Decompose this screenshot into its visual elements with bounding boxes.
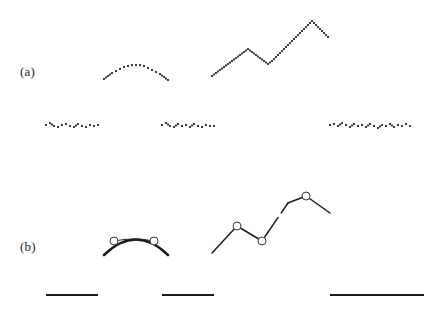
data-dot <box>409 125 411 127</box>
data-dot <box>385 125 387 127</box>
data-dot <box>213 125 215 127</box>
panel-label-a: (a) <box>20 64 35 80</box>
data-dot <box>77 123 79 125</box>
data-dot <box>103 78 105 80</box>
data-dot <box>123 66 125 68</box>
data-dot <box>215 72 217 74</box>
data-dot <box>229 62 231 64</box>
data-dot <box>219 69 221 71</box>
data-dot <box>151 69 153 71</box>
data-dot <box>293 38 295 40</box>
data-dot <box>111 72 113 74</box>
data-dot <box>255 54 257 56</box>
data-dot <box>325 34 327 36</box>
vertex-marker <box>150 237 158 245</box>
data-dot <box>223 66 225 68</box>
data-dot <box>339 124 341 126</box>
data-dot <box>369 123 371 125</box>
data-dot <box>239 54 241 56</box>
data-dot <box>373 125 375 127</box>
data-dot <box>75 125 77 127</box>
data-dot <box>341 122 343 124</box>
polyline-segment <box>281 203 288 213</box>
data-dot <box>273 58 275 60</box>
data-dot <box>105 77 107 79</box>
vertex-marker <box>258 237 266 245</box>
data-dot <box>271 60 273 62</box>
data-dot <box>163 76 165 78</box>
data-dot <box>165 78 167 80</box>
data-dot <box>69 125 71 127</box>
data-dot <box>333 123 335 125</box>
data-dot <box>389 123 391 125</box>
data-dot <box>107 75 109 77</box>
data-dot <box>73 126 75 128</box>
data-dot <box>175 125 177 127</box>
data-dot <box>213 74 215 76</box>
data-dot <box>61 124 63 126</box>
data-dot <box>45 124 47 126</box>
data-dot <box>277 54 279 56</box>
dot-series-group-1-baseline-trail <box>45 122 99 128</box>
data-dot <box>109 74 111 76</box>
panel-b-line-group <box>46 192 424 295</box>
data-dot <box>51 124 53 126</box>
data-dot <box>93 125 95 127</box>
data-dot <box>313 22 315 24</box>
vertex-marker <box>233 222 241 230</box>
data-dot <box>185 124 187 126</box>
data-dot <box>201 126 203 128</box>
data-dot <box>197 125 199 127</box>
data-dot <box>261 59 263 61</box>
data-dot <box>155 71 157 73</box>
data-dot <box>167 124 169 126</box>
data-dot <box>321 30 323 32</box>
data-dot <box>243 51 245 53</box>
data-dot <box>391 125 393 127</box>
data-dot <box>233 59 235 61</box>
data-dot <box>253 53 255 55</box>
data-dot <box>247 48 249 50</box>
data-dot <box>225 65 227 67</box>
data-dot <box>263 60 265 62</box>
data-dot <box>307 24 309 26</box>
data-dot <box>295 36 297 38</box>
dot-series-group-3-zigzag <box>211 20 329 77</box>
data-dot <box>327 36 329 38</box>
data-dot <box>81 125 83 127</box>
data-dot <box>377 127 379 129</box>
data-dot <box>119 68 121 70</box>
data-dot <box>297 34 299 36</box>
vertex-marker <box>302 192 310 200</box>
data-dot <box>365 126 367 128</box>
data-dot <box>127 65 129 67</box>
data-dot <box>245 50 247 52</box>
data-dot <box>345 124 347 126</box>
data-dot <box>165 122 167 124</box>
dot-series-group-3-baseline-trail <box>329 122 411 129</box>
data-dot <box>361 124 363 126</box>
data-dot <box>65 123 67 125</box>
polyline-segment <box>212 226 237 253</box>
vertex-marker <box>110 237 118 245</box>
data-dot <box>291 40 293 42</box>
data-dot <box>135 64 137 66</box>
data-dot <box>315 24 317 26</box>
data-dot <box>323 32 325 34</box>
figure-canvas: (a) (b) <box>0 0 434 309</box>
data-dot <box>303 28 305 30</box>
dot-series-group-2-upper-arc <box>103 64 169 81</box>
data-dot <box>97 124 99 126</box>
data-dot <box>287 44 289 46</box>
data-dot <box>311 20 313 22</box>
data-dot <box>131 64 133 66</box>
data-dot <box>159 73 161 75</box>
data-dot <box>209 125 211 127</box>
data-dot <box>337 125 339 127</box>
data-dot <box>191 125 193 127</box>
data-dot <box>161 75 163 77</box>
data-dot <box>49 122 51 124</box>
data-dot <box>259 57 261 59</box>
data-dot <box>367 125 369 127</box>
data-dot <box>319 28 321 30</box>
